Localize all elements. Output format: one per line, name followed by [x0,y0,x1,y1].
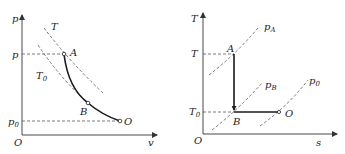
isobar-pB-label: pB [265,79,277,92]
isotherm-T [44,28,104,94]
point-B-label: B [232,116,240,127]
point-A-label: A [226,43,234,54]
p0-tick-label: p0 [8,116,19,129]
p-tick-label: p [12,49,19,60]
thermodynamic-diagrams: p v O p p0 T T0 A B O T s O T T0 [0,0,345,154]
point-B-label: B [79,106,87,117]
isobar-pA-label: pA [264,21,275,34]
T0-tick-label: T0 [189,106,201,119]
point-A-label: A [69,47,77,58]
point-O-label: O [124,116,132,127]
isotherm-T0-label: T0 [36,70,48,83]
isobar-p0-label: p0 [309,75,320,88]
point-O-label: O [285,108,293,119]
point-B [86,101,90,105]
point-A [62,52,66,56]
origin-label: O [14,137,22,148]
T-tick-label: T [191,48,199,59]
point-O [118,119,122,123]
origin-label: O [194,135,202,146]
T-axis-label: T [191,13,199,24]
isotherm-T-label: T [51,21,59,32]
point-O [277,110,280,113]
v-axis-label: v [148,137,154,148]
s-axis-label: s [316,137,321,148]
pv-diagram: p v O p p0 T T0 A B O [8,13,157,148]
process-curve-AO [64,54,120,121]
p-axis-label: p [12,13,19,24]
ts-diagram: T s O T T0 pA pB p0 A B O [189,13,337,148]
